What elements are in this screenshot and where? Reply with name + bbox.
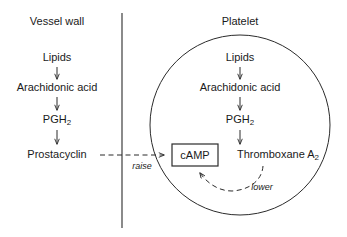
raise-label: raise <box>132 161 152 171</box>
prostacyclin-label: Prostacyclin <box>27 148 86 160</box>
thromboxane-subscript: 2 <box>315 153 320 162</box>
vessel-pgh2-base: PGH <box>43 113 67 125</box>
pathway-diagram: Vessel wall Platelet Lipids Arachidonic … <box>0 0 347 237</box>
platelet-pgh2-label: PGH2 <box>226 113 255 127</box>
vessel-pgh2-subscript: 2 <box>67 118 72 127</box>
platelet-pgh2-subscript: 2 <box>250 118 255 127</box>
lower-label: lower <box>251 182 274 192</box>
platelet-lipids-label: Lipids <box>226 51 255 63</box>
platelet-pgh2-base: PGH <box>226 113 250 125</box>
thromboxane-a2-label: Thromboxane A2 <box>237 148 320 162</box>
vessel-pgh2-label: PGH2 <box>43 113 72 127</box>
diagram-canvas: Vessel wall Platelet Lipids Arachidonic … <box>0 0 347 237</box>
vessel-arachidonic-acid-label: Arachidonic acid <box>17 81 98 93</box>
platelet-arachidonic-acid-label: Arachidonic acid <box>200 81 281 93</box>
thromboxane-base: Thromboxane A <box>237 148 315 160</box>
platelet-label: Platelet <box>222 15 259 27</box>
vessel-wall-label: Vessel wall <box>30 15 84 27</box>
vessel-lipids-label: Lipids <box>43 51 72 63</box>
camp-label: cAMP <box>180 149 209 161</box>
